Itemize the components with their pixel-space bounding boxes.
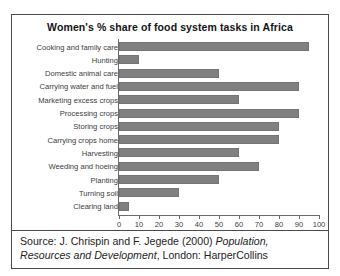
x-axis-tick	[319, 215, 320, 219]
x-axis-tick	[259, 215, 260, 219]
chart-figure: Women's % share of food system tasks in …	[11, 14, 329, 269]
bar	[119, 42, 309, 51]
bar	[119, 95, 239, 104]
category-label: Storing crops	[73, 122, 118, 131]
x-axis-tick	[119, 215, 120, 219]
bar	[119, 55, 139, 64]
category-label: Planting	[91, 176, 118, 185]
bar	[119, 109, 299, 118]
category-label: Marketing excess crops	[38, 96, 118, 105]
x-axis-tick	[279, 215, 280, 219]
bar	[119, 188, 179, 197]
x-axis-tick	[199, 215, 200, 219]
plot-area: Cooking and family careHuntingDomestic a…	[12, 39, 329, 227]
x-axis-tick	[239, 215, 240, 219]
chart-title: Women's % share of food system tasks in …	[12, 21, 328, 33]
bar	[119, 162, 259, 171]
bar	[119, 122, 279, 131]
x-axis-tick	[139, 215, 140, 219]
source-suffix: , London: HarperCollins	[157, 249, 268, 261]
category-label: Harvesting	[82, 149, 118, 158]
x-axis-tick	[159, 215, 160, 219]
category-label: Processing crops	[60, 109, 118, 118]
category-label: Clearing land	[73, 202, 118, 211]
category-label: Carrying crops home	[48, 136, 118, 145]
bar	[119, 69, 219, 78]
x-axis-tick	[219, 215, 220, 219]
bar	[119, 202, 129, 211]
x-axis-tick-label: 100	[307, 220, 329, 229]
bar	[119, 135, 279, 144]
source-divider	[12, 230, 328, 231]
category-label: Weeding and hoeing	[48, 162, 118, 171]
source-prefix: Source: J. Chrispin and F. Jegede (2000)	[20, 235, 216, 247]
bar	[119, 148, 239, 157]
category-label: Domestic animal care	[45, 69, 118, 78]
category-label: Carrying water and fuel	[39, 82, 118, 91]
bar	[119, 82, 299, 91]
bar	[119, 175, 219, 184]
x-axis-tick	[299, 215, 300, 219]
category-label: Turning soil	[79, 189, 118, 198]
x-axis-tick	[179, 215, 180, 219]
category-label: Hunting	[92, 56, 118, 65]
category-label: Cooking and family care	[37, 43, 118, 52]
source-note: Source: J. Chrispin and F. Jegede (2000)…	[20, 234, 322, 262]
